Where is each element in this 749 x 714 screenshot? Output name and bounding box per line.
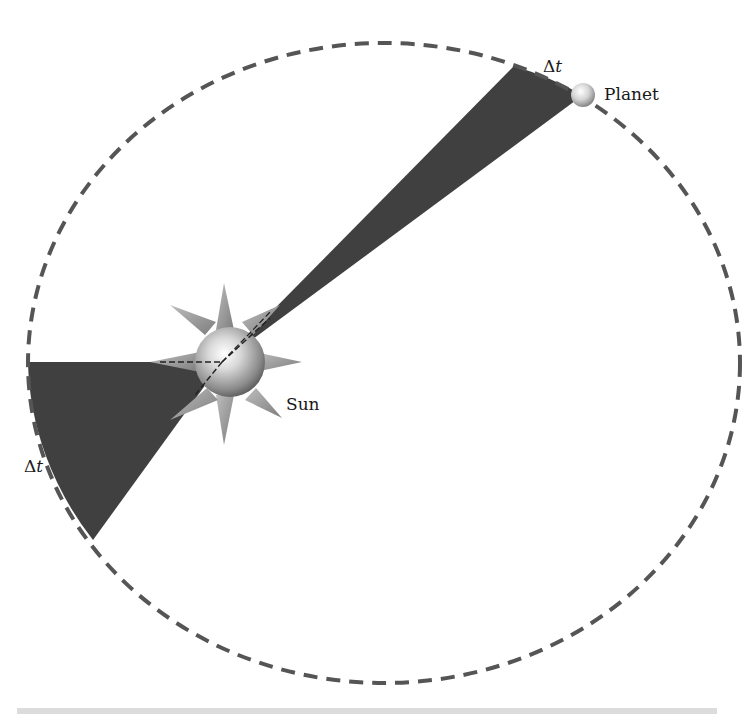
sun-label: Sun — [286, 396, 320, 413]
swept-area-wedge-right — [222, 66, 583, 362]
planet-label: Planet — [604, 86, 659, 103]
kepler-orbit-diagram: Planet Sun Δt Δt — [0, 0, 749, 714]
planet-icon — [571, 83, 595, 107]
swept-area-wedge-left — [28, 362, 222, 540]
delta-t-label-top: Δt — [543, 58, 562, 75]
caption-divider-bar — [17, 708, 717, 714]
diagram-canvas — [0, 0, 749, 714]
delta-t-label-bottom: Δt — [24, 458, 43, 475]
